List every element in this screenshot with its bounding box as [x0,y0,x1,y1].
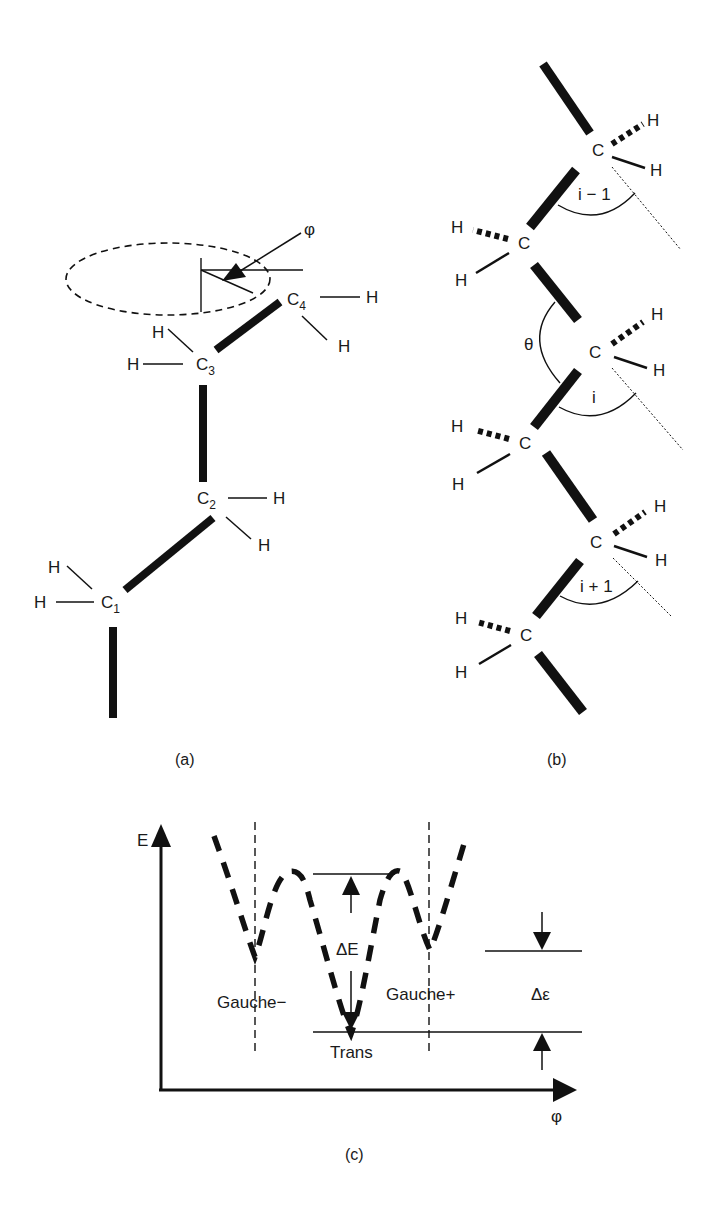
hydrogen: H [152,323,164,342]
hydrogen: H [455,663,467,682]
panel-c-caption: (c) [345,1146,364,1163]
wedge-dashed-bond [612,322,643,344]
rotation-projection [201,270,253,293]
hydrogen: H [451,417,463,436]
bond-c-h [476,253,509,273]
bond-c-h [614,546,647,557]
hydrogen: H [48,558,60,577]
projection-line [612,167,681,250]
y-axis-label: E [137,831,148,850]
trans-label: Trans [330,1043,373,1062]
bond-c-h [612,157,645,168]
projection-line [612,368,683,450]
gauche-minus-label: Gauche− [217,993,287,1012]
hydrogen: H [650,161,662,180]
wedge-dashed-bond [475,430,509,439]
bond-backbone [534,265,578,320]
bond-c1-c2 [125,518,213,590]
wedge-dashed-bond [477,622,510,631]
panel-a-caption: (a) [175,751,195,768]
phi-arrowhead-icon [222,263,246,281]
carbon-c3: C3 [196,355,215,378]
x-axis-arrow-icon [553,1078,577,1102]
rotation-ellipse [66,243,270,315]
panel-a: φ C4 H H C3 H H C2 H H C1 H H (a) [34,220,378,768]
hydrogen: H [34,593,46,612]
hydrogen: H [127,355,139,374]
phi-label: φ [304,220,315,239]
bond-backbone [534,371,578,427]
panel-b-caption: (b) [547,751,567,768]
wedge-dashed-bond [614,512,645,534]
hydrogen: H [655,551,667,570]
bond-c2-h [226,517,251,539]
hydrogen: H [647,111,659,130]
bond-backbone [536,561,580,616]
hydrogen: H [653,361,665,380]
carbon: C [590,533,602,552]
carbon: C [592,141,604,160]
x-axis-label: φ [551,1107,562,1126]
hydrogen: H [455,609,467,628]
hydrogen: H [451,218,463,237]
bond-c-h [479,645,511,664]
bond-backbone [546,453,593,520]
bond-chain [543,64,590,133]
carbon: C [518,234,530,253]
panel-b: C H H i − 1 C H H θ C H H i C H H [451,64,683,768]
bond-c3-c4 [216,302,280,350]
hydrogen: H [273,489,285,508]
hydrogen: H [366,288,378,307]
carbon: C [589,343,601,362]
hydrogen: H [654,497,666,516]
bond-c-h [614,357,647,368]
bond-c3-h [168,329,193,352]
delta-epsilon-arrowhead-down-icon [533,932,551,950]
bond-angle-arc [540,302,560,383]
hydrogen: H [455,271,467,290]
carbon: C [520,626,532,645]
carbon: C [519,434,531,453]
delta-e-label: ΔE [336,940,359,959]
y-axis-arrow-icon [151,824,171,847]
delta-e-arrowhead-down-icon [342,1012,360,1030]
dihedral-arc [559,393,636,416]
theta-label: θ [524,335,533,354]
bond-c4-h [302,316,327,340]
hydrogen: H [452,475,464,494]
angle-label-i-plus-1: i + 1 [580,577,613,596]
wedge-dashed-bond [612,124,643,144]
delta-e-arrowhead-up-icon [342,876,360,895]
bond-c1-h [67,566,92,589]
panel-c: E φ ΔE Δε Gauche− Gauche+ Trans (c) [137,822,582,1163]
bond-chain [538,654,583,712]
conformation-figure: φ C4 H H C3 H H C2 H H C1 H H (a) [0,0,714,1214]
hydrogen: H [338,337,350,356]
angle-label-i: i [592,388,596,407]
carbon-c1: C1 [101,593,120,616]
hydrogen: H [258,536,270,555]
hydrogen: H [651,305,663,324]
delta-epsilon-label: Δε [531,985,550,1004]
angle-label-i-minus-1: i − 1 [578,185,611,204]
carbon-c4: C4 [287,290,306,313]
carbon-c2: C2 [197,489,216,512]
bond-backbone [530,170,576,227]
bond-c-h [477,454,510,473]
wedge-dashed-bond [473,230,508,239]
gauche-plus-label: Gauche+ [386,985,456,1004]
